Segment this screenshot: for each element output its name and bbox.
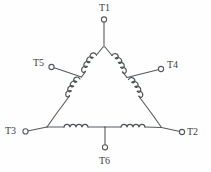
edge-bottom-right-stub [145, 127, 162, 128]
schematic-canvas [0, 0, 211, 172]
terminal-node-t2[interactable] [179, 129, 184, 134]
coil-left-lower [66, 77, 80, 97]
lead-line-t5 [54, 68, 82, 78]
terminal-label-t2: T2 [187, 127, 198, 137]
edge-right-apex-stub [105, 47, 112, 56]
terminal-label-t4: T4 [167, 60, 178, 70]
terminal-label-t6: T6 [99, 156, 110, 166]
terminal-node-t3[interactable] [23, 129, 28, 134]
terminal-label-t5: T5 [33, 58, 44, 68]
terminal-node-t4[interactable] [158, 66, 163, 71]
edge-left-lower-stub [47, 96, 70, 127]
coil-right-lower [129, 78, 143, 98]
lead-line-t3 [28, 127, 48, 131]
coil-left-upper [82, 53, 97, 73]
terminal-node-t5[interactable] [49, 64, 54, 69]
winding-diagram: T1 T5 T4 T3 T2 T6 [0, 0, 211, 172]
coil-right-upper [112, 54, 126, 74]
edge-right-lower-stub [139, 97, 162, 128]
lead-line-t4 [127, 70, 159, 78]
lead-line-t2 [162, 128, 181, 132]
terminal-label-t1: T1 [99, 3, 110, 13]
terminal-label-t3: T3 [5, 126, 16, 136]
terminal-node-t1[interactable] [101, 17, 106, 22]
terminal-node-t6[interactable] [102, 145, 107, 150]
edge-left-apex-stub [97, 47, 104, 55]
coil-bottom-right [121, 124, 145, 127]
coil-bottom-left [64, 124, 88, 127]
